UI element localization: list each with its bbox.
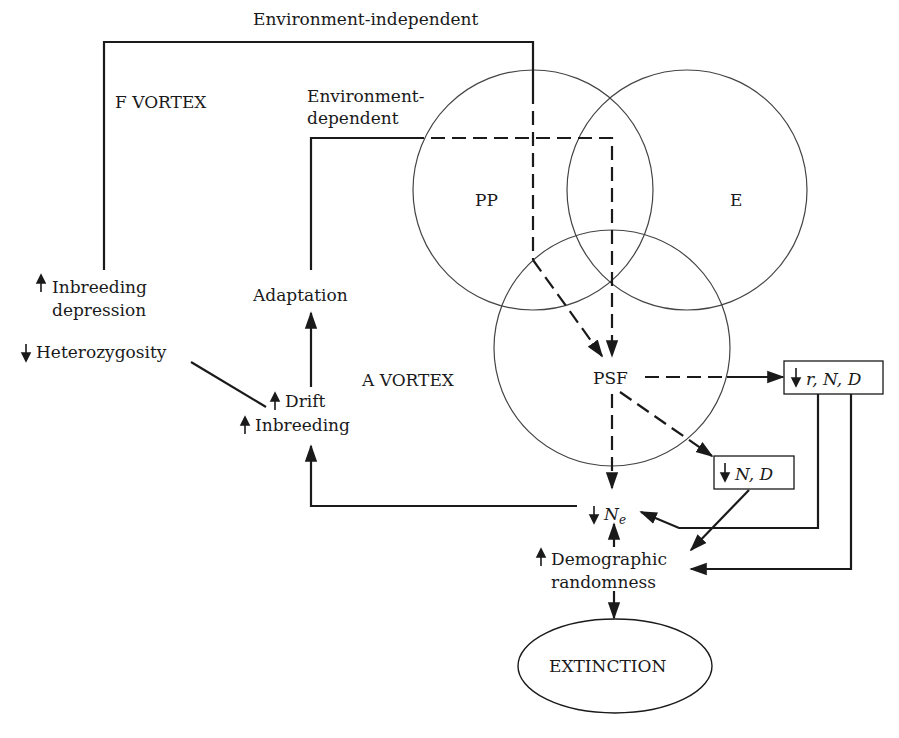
circle-psf-label: PSF [593,368,628,388]
circle-e-label: E [730,190,742,210]
nd-box-label: N, D [734,464,774,484]
inbreeding-depression-label-1: Inbreeding [52,277,147,297]
heterozygosity-label: Heterozygosity [36,342,167,362]
extinction-label: EXTINCTION [549,656,666,676]
ne-label: Ne [603,504,626,527]
circle-pp [413,70,653,310]
arrow-up-icon [37,275,45,292]
arrow-down-icon [590,506,598,523]
adaptation-label: Adaptation [252,285,348,305]
env-dependent-label-1: Environment- [307,86,424,106]
dashed-connectors [410,90,727,488]
arrow-down-icon [22,344,30,361]
env-independent-label: Environment-independent [253,9,479,29]
venn-circles [413,70,807,466]
a-vortex-label: A VORTEX [361,370,455,390]
inbreeding-label: Inbreeding [255,415,350,435]
arrow-up-icon [537,549,545,566]
arrow-up-icon [271,393,279,410]
env-dependent-label-2: dependent [307,108,399,128]
drift-label: Drift [285,391,325,411]
solid-connectors [104,42,851,618]
circle-e [567,70,807,310]
arrow-up-icon [241,417,249,434]
extinction-vortex-diagram: Environment-independent F VORTEX Environ… [0,0,899,738]
demographic-label-2: randomness [551,572,656,592]
demographic-label-1: Demographic [551,549,667,569]
circle-pp-label: PP [475,190,498,210]
rnd-box-label: r, N, D [806,369,862,389]
inbreeding-depression-label-2: depression [52,300,146,320]
f-vortex-label: F VORTEX [115,92,207,112]
